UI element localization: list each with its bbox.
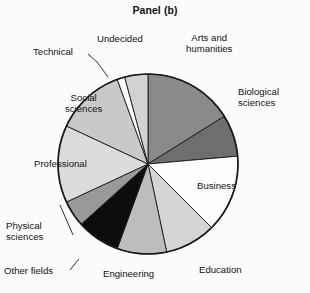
slice-label-social-line1: Social <box>65 92 102 103</box>
slice-label-technical: Technical <box>33 46 73 57</box>
pie-chart-figure: Panel (b) Arts and humanities Biological… <box>0 0 310 293</box>
slice-label-arts-line2: humanities <box>186 43 232 54</box>
slice-label-bio-line2: sciences <box>238 97 279 108</box>
slice-label-arts-line1: Arts and <box>186 32 232 43</box>
slice-label-biological-sciences: Biological sciences <box>238 86 279 109</box>
slice-label-social-sciences: Social sciences <box>65 92 102 115</box>
slice-label-physical-sciences: Physical sciences <box>6 220 43 243</box>
slice-label-social-line2: sciences <box>65 103 102 114</box>
leader-line-other-fields <box>70 259 79 270</box>
slice-label-business: Business <box>197 180 236 191</box>
slice-label-undecided: Undecided <box>97 33 143 44</box>
slice-label-professional: Professional <box>34 158 87 169</box>
slice-label-education: Education <box>199 264 242 275</box>
slice-label-bio-line1: Biological <box>238 86 279 97</box>
slice-label-other-fields: Other fields <box>4 265 53 276</box>
slice-label-physical-line1: Physical <box>6 220 43 231</box>
slice-label-physical-line2: sciences <box>6 231 43 242</box>
leader-line-technical <box>88 54 108 77</box>
slice-label-arts-and-humanities: Arts and humanities <box>186 32 232 55</box>
pie-chart-svg <box>0 0 310 293</box>
slice-label-engineering: Engineering <box>103 268 154 279</box>
